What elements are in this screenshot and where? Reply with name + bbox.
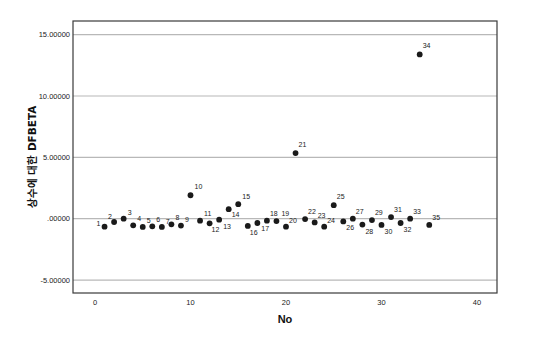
- point-marker-icon: [102, 224, 108, 230]
- point-label: 16: [250, 229, 258, 236]
- point-label: 15: [242, 193, 250, 200]
- point-label: 33: [413, 208, 421, 215]
- data-point: 3: [121, 209, 132, 222]
- point-label: 30: [385, 228, 393, 235]
- data-point: 35: [426, 214, 440, 228]
- data-point: 8: [169, 214, 180, 227]
- point-marker-icon: [321, 224, 327, 230]
- point-marker-icon: [140, 224, 146, 230]
- point-label: 18: [270, 210, 278, 217]
- point-label: 13: [223, 223, 231, 230]
- data-points: 1234567891011121314151617181920212223242…: [97, 42, 441, 236]
- x-tick-label: 30: [377, 298, 385, 307]
- x-tick-label: 10: [186, 298, 194, 307]
- y-tick-label: -5.00000: [40, 276, 70, 285]
- data-point: 4: [130, 215, 141, 228]
- point-label: 32: [404, 226, 412, 233]
- point-label: 8: [175, 214, 179, 221]
- data-point: 15: [235, 193, 250, 207]
- point-marker-icon: [178, 223, 184, 229]
- data-point: 7: [159, 218, 170, 230]
- point-marker-icon: [149, 223, 155, 229]
- y-axis-ticks: 15.0000010.000005.00000.00000-5.00000: [39, 30, 70, 284]
- point-marker-icon: [274, 218, 280, 224]
- gridlines: [73, 35, 497, 280]
- point-label: 34: [423, 42, 431, 49]
- point-marker-icon: [302, 216, 308, 222]
- y-tick-label: .00000: [47, 214, 70, 223]
- point-marker-icon: [293, 150, 299, 156]
- data-point: 10: [188, 183, 203, 198]
- point-marker-icon: [283, 224, 289, 230]
- data-point: 14: [226, 206, 240, 218]
- point-label: 12: [212, 226, 220, 233]
- point-marker-icon: [350, 216, 356, 222]
- point-marker-icon: [130, 222, 136, 228]
- data-point: 33: [407, 208, 421, 222]
- point-label: 5: [147, 217, 151, 224]
- x-tick-label: 40: [473, 298, 481, 307]
- data-point: 25: [331, 193, 345, 208]
- point-marker-icon: [388, 214, 394, 220]
- point-marker-icon: [417, 52, 423, 58]
- point-label: 3: [128, 209, 132, 216]
- data-point: 21: [293, 141, 307, 156]
- point-label: 2: [108, 213, 112, 220]
- point-label: 20: [289, 217, 297, 224]
- y-tick-label: 10.00000: [39, 92, 70, 101]
- point-marker-icon: [331, 202, 337, 208]
- data-point: 1: [97, 220, 108, 230]
- point-marker-icon: [159, 224, 165, 230]
- point-label: 23: [318, 212, 326, 219]
- point-label: 35: [432, 214, 440, 221]
- point-label: 21: [299, 141, 307, 148]
- x-tick-label: 20: [282, 298, 290, 307]
- point-label: 4: [137, 215, 141, 222]
- point-marker-icon: [188, 192, 194, 198]
- x-axis-ticks: 010203040: [93, 298, 481, 307]
- scatter-chart: 15.0000010.000005.00000.00000-5.00000 01…: [0, 0, 533, 342]
- point-label: 29: [375, 209, 383, 216]
- point-marker-icon: [426, 222, 432, 228]
- data-point: 12: [207, 220, 220, 233]
- point-marker-icon: [254, 220, 260, 226]
- point-marker-icon: [169, 221, 175, 227]
- point-marker-icon: [235, 201, 241, 207]
- data-point: 31: [388, 206, 402, 220]
- x-tick-label: 0: [93, 298, 97, 307]
- point-label: 24: [327, 217, 335, 224]
- point-marker-icon: [312, 219, 318, 225]
- y-tick-label: 15.00000: [39, 30, 70, 39]
- y-tick-label: 5.00000: [43, 153, 70, 162]
- point-label: 17: [261, 225, 269, 232]
- point-label: 9: [185, 216, 189, 223]
- data-point: 28: [360, 222, 374, 235]
- point-marker-icon: [264, 218, 270, 224]
- point-label: 11: [204, 210, 211, 217]
- point-label: 1: [97, 220, 101, 227]
- point-label: 31: [394, 206, 402, 213]
- x-axis-label: No: [278, 313, 293, 325]
- data-point: 30: [379, 222, 393, 235]
- point-marker-icon: [111, 219, 117, 225]
- point-marker-icon: [197, 218, 203, 224]
- point-label: 10: [195, 183, 203, 190]
- point-marker-icon: [407, 216, 413, 222]
- y-axis-label: 상수에 대한 DFBETA: [26, 105, 38, 209]
- point-label: 27: [356, 208, 364, 215]
- data-point: 9: [178, 216, 189, 229]
- data-point: 34: [417, 42, 431, 57]
- point-label: 6: [156, 216, 160, 223]
- point-label: 28: [365, 228, 373, 235]
- point-label: 22: [308, 208, 316, 215]
- point-label: 26: [346, 224, 354, 231]
- point-label: 14: [232, 211, 240, 218]
- point-marker-icon: [216, 217, 222, 223]
- data-point: 32: [398, 220, 412, 233]
- data-point: 27: [350, 208, 364, 222]
- point-marker-icon: [369, 217, 375, 223]
- point-label: 25: [337, 193, 345, 200]
- point-marker-icon: [121, 216, 127, 222]
- data-point: 29: [369, 209, 383, 223]
